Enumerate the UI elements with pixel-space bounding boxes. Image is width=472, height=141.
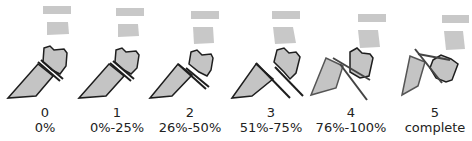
stage-3-range: 51%-75% xyxy=(231,120,311,135)
stage-3-grade: 3 xyxy=(231,105,311,120)
stage-4-range: 76%-100% xyxy=(311,120,391,135)
stage-4-grade: 4 xyxy=(311,105,391,120)
stage-1-figure xyxy=(79,8,144,98)
stage-5-grade: 5 xyxy=(395,105,472,120)
stage-0-range: 0% xyxy=(5,120,85,135)
stage-4-figure xyxy=(311,14,386,100)
stage-5-figure xyxy=(402,15,469,95)
stage-2-grade: 2 xyxy=(150,105,230,120)
stage-3-figure xyxy=(232,11,303,98)
stage-5-range: complete xyxy=(395,120,472,135)
stage-1-grade: 1 xyxy=(77,105,157,120)
stage-1-range: 0%-25% xyxy=(77,120,157,135)
stage-0-grade: 0 xyxy=(5,105,85,120)
stage-2-figure xyxy=(150,11,219,98)
grading-diagram: 0 0% 1 0%-25% 2 26%-50% 3 51%-75% 4 76%-… xyxy=(0,0,472,141)
stage-2-range: 26%-50% xyxy=(150,120,230,135)
stage-0-figure xyxy=(8,6,71,98)
